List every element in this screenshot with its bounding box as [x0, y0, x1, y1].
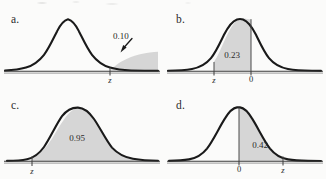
panel-a-tick-label-z: z — [102, 75, 118, 85]
panel-c-tick-label-z: z — [24, 166, 40, 176]
panel-a-shaded-region — [110, 52, 158, 71]
panel-c: c. z 0.95 — [0, 90, 163, 179]
panel-a: a. z 0.10 — [0, 0, 163, 89]
panel-b-tick-label-mean: 0 — [243, 74, 259, 84]
panel-d-tick-label-z: z — [275, 165, 291, 175]
panel-a-area-label: 0.10 — [113, 31, 129, 41]
panel-d-tick-label-mean: 0 — [231, 164, 247, 174]
panel-b: b. z 0 0.23 — [163, 0, 326, 89]
panel-c-area-label: 0.95 — [60, 133, 94, 143]
panel-a-plot — [0, 0, 163, 89]
panel-d: d. 0 z 0.42 — [163, 90, 326, 179]
panel-b-tick-label-z: z — [206, 75, 222, 85]
panel-d-area-label: 0.42 — [243, 140, 277, 150]
panel-b-area-label: 0.23 — [215, 50, 249, 60]
figure-sheet: a. z 0.10 b. — [0, 0, 326, 179]
